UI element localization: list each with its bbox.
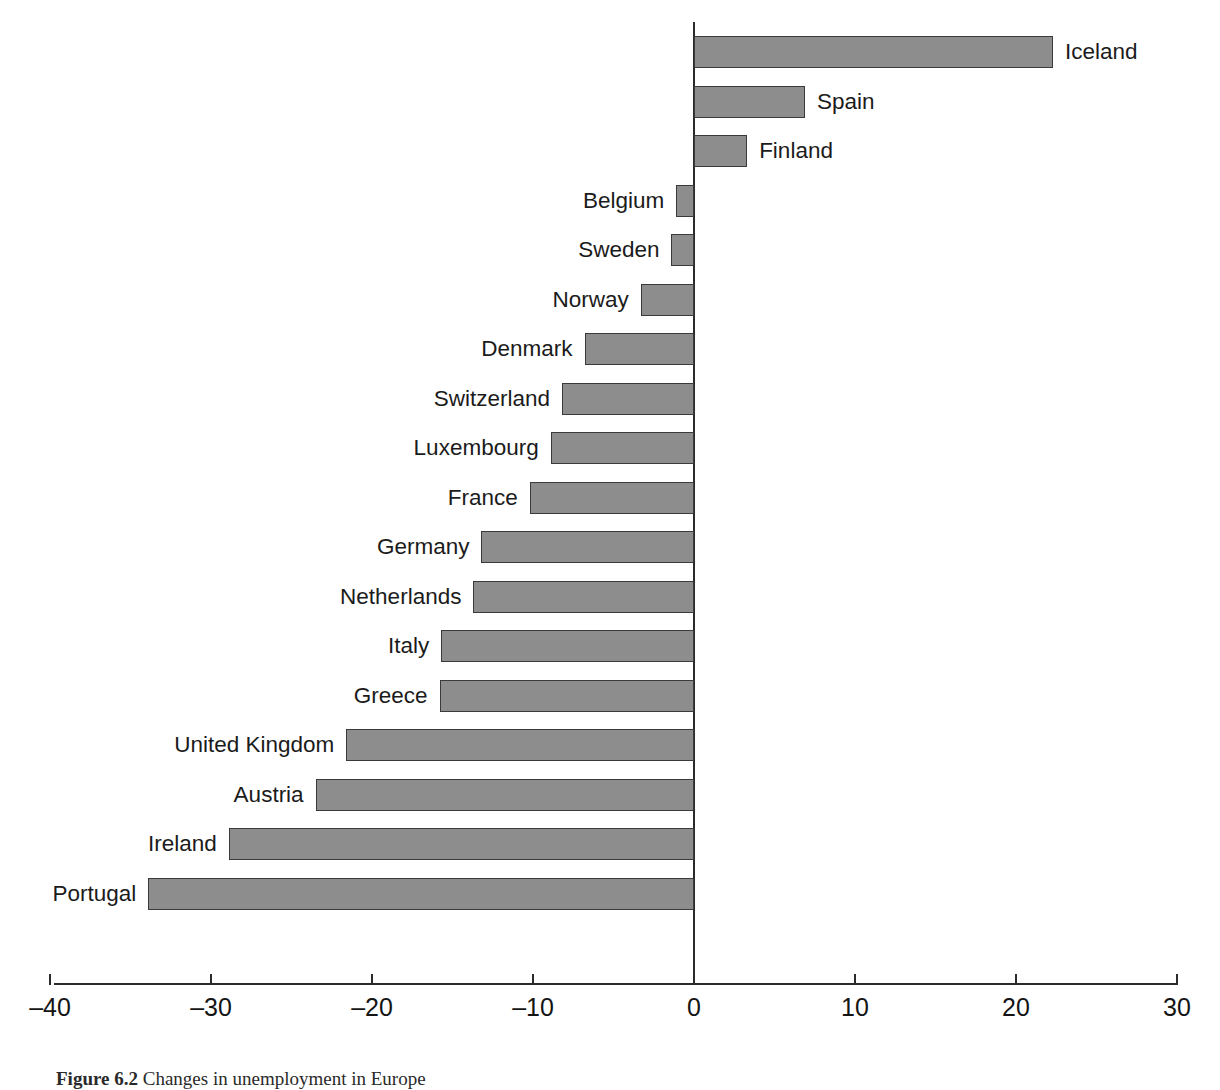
x-axis-tick-mark [210,974,212,985]
bar-category-label: Denmark [0,333,573,365]
bar [694,135,747,167]
bar [229,828,694,860]
bar [641,284,694,316]
x-axis-tick-mark [49,974,51,985]
bar-row: Norway [0,284,1220,334]
bar-row: Germany [0,531,1220,581]
x-axis-tick-label: –10 [488,993,578,1022]
bar [585,333,694,365]
bar-row: Greece [0,680,1220,730]
bar [671,234,694,266]
bar-category-label: France [0,482,518,514]
bar-row: Austria [0,779,1220,829]
bar-category-label: Sweden [0,234,659,266]
bar-category-label: United Kingdom [0,729,334,761]
figure-caption-number: Figure 6.2 [56,1068,138,1089]
bar-category-label: Italy [0,630,429,662]
bar-category-label: Greece [0,680,428,712]
bar-row: Luxembourg [0,432,1220,482]
x-axis-tick-label: 10 [810,993,900,1022]
bar-category-label: Netherlands [0,581,461,613]
x-axis-tick-mark [854,974,856,985]
bar [440,680,694,712]
bar-row: United Kingdom [0,729,1220,779]
bar [473,581,694,613]
bar [441,630,694,662]
bar-row: Portugal [0,878,1220,928]
x-axis-tick-label: –30 [166,993,256,1022]
bar-category-label: Portugal [0,878,136,910]
bar-row: Denmark [0,333,1220,383]
bar-category-label: Iceland [1065,36,1220,68]
bar-row: Italy [0,630,1220,680]
x-axis-tick-label: –40 [5,993,95,1022]
x-axis-tick-label: 20 [971,993,1061,1022]
bar-category-label: Austria [0,779,304,811]
bar-row: Ireland [0,828,1220,878]
bar [148,878,694,910]
figure-caption: Figure 6.2 Changes in unemployment in Eu… [56,1068,1056,1090]
bar [316,779,694,811]
bar [530,482,694,514]
bar [551,432,694,464]
bar-category-label: Norway [0,284,629,316]
bar-category-label: Finland [759,135,1220,167]
bar-row: Iceland [0,36,1220,86]
x-axis-line [54,983,1177,985]
bar-category-label: Germany [0,531,469,563]
bar-category-label: Belgium [0,185,664,217]
x-axis-tick-label: 0 [649,993,739,1022]
bar-category-label: Spain [817,86,1220,118]
bar-row: Sweden [0,234,1220,284]
x-axis-tick-mark [371,974,373,985]
x-axis-tick-mark [532,974,534,985]
bar-row: France [0,482,1220,532]
bar [481,531,694,563]
bar-category-label: Luxembourg [0,432,539,464]
bar-row: Belgium [0,185,1220,235]
bar [694,36,1053,68]
bar [676,185,694,217]
figure-caption-text: Changes in unemployment in Europe [143,1068,426,1089]
bar-row: Netherlands [0,581,1220,631]
x-axis-tick-mark [1176,974,1178,985]
plot-area: IcelandSpainFinlandBelgiumSwedenNorwayDe… [0,0,1220,985]
bar-row: Switzerland [0,383,1220,433]
bar-category-label: Ireland [0,828,217,860]
bar-row: Finland [0,135,1220,185]
bar-category-label: Switzerland [0,383,550,415]
x-axis-tick-label: –20 [327,993,417,1022]
bar [562,383,694,415]
x-axis-tick-mark [693,974,695,985]
x-axis-tick-label: 30 [1132,993,1220,1022]
bar [346,729,694,761]
bar-row: Spain [0,86,1220,136]
x-axis-tick-mark [1015,974,1017,985]
bar [694,86,805,118]
